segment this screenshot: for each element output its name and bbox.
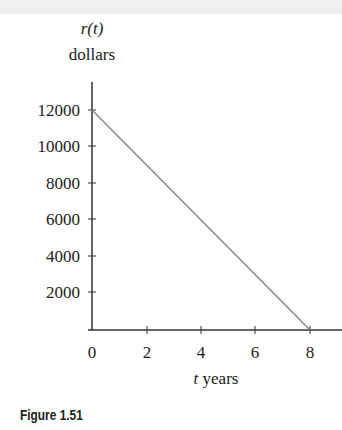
svg-text:12000: 12000 xyxy=(38,101,81,120)
y-axis-label-unit: dollars xyxy=(69,45,115,64)
svg-text:2: 2 xyxy=(143,343,152,362)
svg-text:0: 0 xyxy=(88,343,97,362)
svg-text:4000: 4000 xyxy=(46,247,80,266)
svg-text:6000: 6000 xyxy=(46,210,80,229)
svg-text:10000: 10000 xyxy=(38,137,81,156)
x-ticks: 0 2 4 6 8 xyxy=(88,326,315,362)
y-ticks: 12000 10000 8000 6000 4000 2000 xyxy=(38,101,97,302)
svg-text:8000: 8000 xyxy=(46,174,80,193)
svg-text:8: 8 xyxy=(306,343,315,362)
x-axis-label: t years xyxy=(194,369,239,388)
svg-text:4: 4 xyxy=(197,343,206,362)
svg-text:2000: 2000 xyxy=(46,283,80,302)
figure-caption: Figure 1.51 xyxy=(20,407,83,423)
chart: r(t) dollars 12000 10000 8000 6000 4000 … xyxy=(0,0,342,430)
y-axis-label-var: r(t) xyxy=(81,19,104,38)
svg-text:6: 6 xyxy=(251,343,260,362)
data-line xyxy=(92,110,310,330)
